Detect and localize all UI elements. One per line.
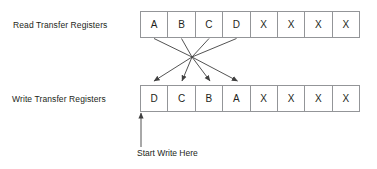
read-cell: X [304,11,331,38]
write-cell: X [332,85,360,112]
read-cell: X [250,11,277,38]
read-cell: X [332,11,360,38]
arrow-c-to-position-2 [182,57,192,81]
arrow-line-b-in [182,39,193,58]
read-cell: X [277,11,304,38]
write-cell: X [304,85,331,112]
write-cell: B [195,85,222,112]
start-write-here-label: Start Write Here [137,149,198,158]
write-transfer-registers-label: Write Transfer Registers [12,95,106,104]
write-cell: X [250,85,277,112]
transfer-register-diagram: Read Transfer Registers A B C D X X X X … [0,0,377,169]
read-transfer-registers-label: Read Transfer Registers [13,21,107,30]
read-cell: B [167,11,194,38]
arrow-d-to-position-1 [154,57,192,81]
read-cell: C [195,11,222,38]
write-cell: D [140,85,167,112]
read-cell: D [222,11,249,38]
arrow-a-to-position-4 [192,57,238,81]
write-cell: C [167,85,194,112]
read-cell: A [140,11,167,38]
write-register-row: D C B A X X X X [140,85,360,112]
arrow-line-a-in [154,39,192,58]
read-register-row: A B C D X X X X [140,11,360,38]
write-cell: X [277,85,304,112]
write-cell: A [222,85,249,112]
arrow-line-c-in [192,39,209,58]
arrow-line-d-in [192,39,237,58]
arrow-b-to-position-3 [192,57,210,81]
